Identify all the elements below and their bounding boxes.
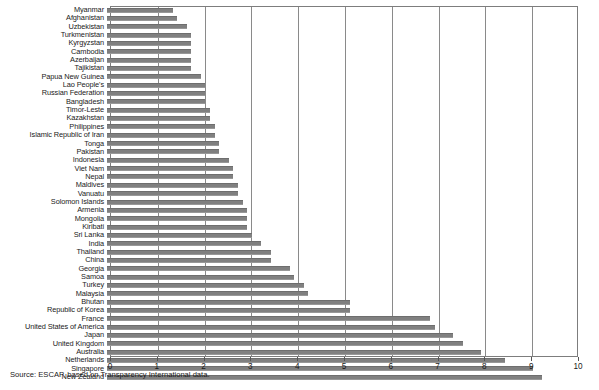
- bar-track: [107, 56, 599, 64]
- bar-track: [107, 298, 599, 306]
- bar-track: [107, 148, 599, 156]
- bar: [107, 33, 191, 38]
- bar: [107, 124, 215, 129]
- bar: [107, 174, 233, 179]
- bar: [107, 99, 205, 104]
- bar: [107, 233, 252, 238]
- x-tick-label: 10: [573, 361, 582, 372]
- bar-track: [107, 14, 599, 22]
- bar-track: [107, 6, 599, 14]
- bar: [107, 116, 210, 121]
- bar: [107, 208, 247, 213]
- bar-track: [107, 23, 599, 31]
- x-tick-label: 7: [435, 361, 440, 372]
- bar-track: [107, 156, 599, 164]
- bar: [107, 8, 173, 13]
- bar: [107, 83, 205, 88]
- bar: [107, 308, 350, 313]
- bar: [107, 275, 294, 280]
- bar-track: [107, 340, 599, 348]
- bar: [107, 24, 187, 29]
- bar-rows: MyanmarAfghanistanUzbekistanTurkmenistan…: [0, 6, 599, 381]
- bar: [107, 74, 201, 79]
- bar: [107, 283, 304, 288]
- bar-track: [107, 290, 599, 298]
- bar: [107, 66, 191, 71]
- bar: [107, 333, 453, 338]
- bar-track: [107, 265, 599, 273]
- bar: [107, 258, 271, 263]
- bar: [107, 133, 215, 138]
- bar: [107, 216, 247, 221]
- bar: [107, 225, 247, 230]
- bar-track: [107, 31, 599, 39]
- bar-track: [107, 190, 599, 198]
- bar-track: [107, 206, 599, 214]
- bar-track: [107, 123, 599, 131]
- bar: [107, 149, 219, 154]
- bar: [107, 91, 205, 96]
- bar-track: [107, 165, 599, 173]
- bar: [107, 41, 191, 46]
- bar-track: [107, 240, 599, 248]
- bar: [107, 291, 308, 296]
- bar-track: [107, 348, 599, 356]
- x-tick-label: 9: [529, 361, 534, 372]
- bar-track: [107, 273, 599, 281]
- bar: [107, 16, 177, 21]
- bar-track: [107, 306, 599, 314]
- bar-track: [107, 315, 599, 323]
- bar: [107, 350, 481, 355]
- bar-track: [107, 114, 599, 122]
- bar: [107, 158, 229, 163]
- bar-track: [107, 106, 599, 114]
- bar: [107, 266, 290, 271]
- bar: [107, 108, 210, 113]
- bar-track: [107, 331, 599, 339]
- bar-track: [107, 48, 599, 56]
- bar: [107, 316, 430, 321]
- x-tick-label: 4: [295, 361, 300, 372]
- bar: [107, 58, 191, 63]
- bar-track: [107, 248, 599, 256]
- bar: [107, 325, 435, 330]
- bar: [107, 191, 238, 196]
- bar: [107, 166, 233, 171]
- bar-track: [107, 223, 599, 231]
- bar-chart: MyanmarAfghanistanUzbekistanTurkmenistan…: [0, 0, 599, 390]
- bar-track: [107, 256, 599, 264]
- bar: [107, 250, 271, 255]
- x-tick-label: 6: [389, 361, 394, 372]
- bar: [107, 141, 219, 146]
- bar: [107, 300, 350, 305]
- bar-track: [107, 198, 599, 206]
- bar-track: [107, 89, 599, 97]
- bar-track: [107, 131, 599, 139]
- bar-track: [107, 64, 599, 72]
- bar-track: [107, 140, 599, 148]
- bar-track: [107, 281, 599, 289]
- source-note: Source: ESCAP, based on Transparency Int…: [10, 370, 210, 380]
- bar: [107, 341, 463, 346]
- bar-track: [107, 98, 599, 106]
- x-tick-label: 3: [248, 361, 253, 372]
- bar-track: [107, 39, 599, 47]
- bar-track: [107, 181, 599, 189]
- bar-track: [107, 173, 599, 181]
- bar: [107, 183, 238, 188]
- bar: [107, 49, 191, 54]
- x-tick-label: 5: [342, 361, 347, 372]
- bar-track: [107, 73, 599, 81]
- bar: [107, 200, 243, 205]
- bar-track: [107, 323, 599, 331]
- bar: [107, 241, 261, 246]
- bar-track: [107, 81, 599, 89]
- x-tick-label: 8: [482, 361, 487, 372]
- bar-track: [107, 215, 599, 223]
- bar-track: [107, 231, 599, 239]
